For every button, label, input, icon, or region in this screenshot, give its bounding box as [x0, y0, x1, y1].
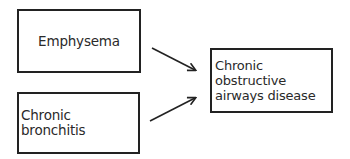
node-label: Chronic bronchitis [21, 108, 138, 138]
node-chronic-bronchitis: Chronic bronchitis [17, 92, 140, 154]
arrow-bronchitis-to-copd [150, 98, 195, 121]
node-emphysema: Emphysema [17, 9, 141, 73]
node-copd: Chronic obstructive airways disease [210, 48, 333, 113]
node-label: Emphysema [38, 34, 120, 49]
arrow-emphysema-to-copd [152, 48, 195, 70]
node-label: Chronic obstructive airways disease [215, 58, 331, 103]
